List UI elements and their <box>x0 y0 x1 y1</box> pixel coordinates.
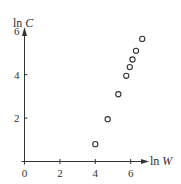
data-point <box>127 65 132 70</box>
x-tick-label: 4 <box>93 167 99 179</box>
scatter-chart: 0246246 ln C ln W <box>0 0 181 184</box>
data-point <box>105 117 110 122</box>
x-axis-arrow-icon <box>141 159 149 164</box>
x-tick-label: 2 <box>57 167 63 179</box>
y-tick-label: 4 <box>14 69 20 81</box>
data-point <box>116 92 121 97</box>
data-points <box>93 36 145 146</box>
data-point <box>93 142 98 147</box>
axes <box>22 27 150 165</box>
x-axis-label: ln W <box>150 154 173 168</box>
data-point <box>140 36 145 41</box>
data-point <box>130 57 135 62</box>
y-tick-label: 2 <box>14 112 20 124</box>
y-axis-label: ln C <box>13 16 34 30</box>
ticks: 0246246 <box>14 25 134 178</box>
data-point <box>124 73 129 78</box>
x-tick-label: 0 <box>22 167 28 179</box>
data-point <box>133 48 138 53</box>
x-tick-label: 6 <box>128 167 134 179</box>
